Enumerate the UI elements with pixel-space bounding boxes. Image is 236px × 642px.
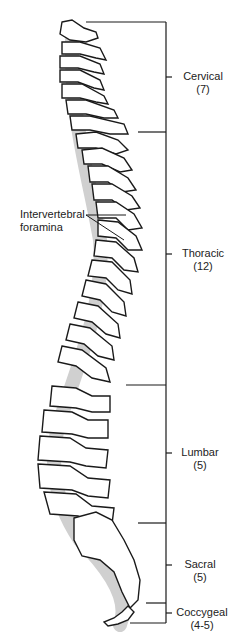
region-name: Sacral	[172, 558, 228, 571]
region-name: Cervical	[174, 70, 232, 83]
region-count: (4-5)	[170, 619, 234, 632]
spine-illustration	[0, 0, 236, 642]
region-count: (5)	[172, 459, 228, 472]
foramina-label-line1: Intervertebral	[20, 208, 85, 220]
cervical-vertebrae	[60, 20, 128, 134]
region-label-coccygeal: Coccygeal (4-5)	[170, 606, 234, 632]
lumbar-vertebrae	[38, 386, 114, 524]
foramina-label: Intervertebral foramina	[20, 208, 85, 234]
foramina-label-line2: foramina	[20, 221, 63, 233]
region-count: (12)	[174, 260, 232, 273]
region-name: Coccygeal	[170, 606, 234, 619]
region-label-lumbar: Lumbar (5)	[172, 446, 228, 472]
region-label-thoracic: Thoracic (12)	[174, 247, 232, 273]
region-label-sacral: Sacral (5)	[172, 558, 228, 584]
region-count: (5)	[172, 571, 228, 584]
region-label-cervical: Cervical (7)	[174, 70, 232, 96]
spine-diagram: Intervertebral foramina Cervical (7) Tho…	[0, 0, 236, 642]
sacrum	[74, 512, 140, 608]
region-count: (7)	[174, 83, 232, 96]
region-name: Lumbar	[172, 446, 228, 459]
region-name: Thoracic	[174, 247, 232, 260]
thoracic-vertebrae	[58, 132, 142, 382]
